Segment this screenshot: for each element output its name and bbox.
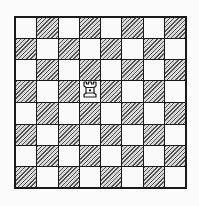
square-a5[interactable] — [16, 81, 36, 102]
square-h4[interactable] — [165, 103, 185, 123]
square-b5[interactable] — [37, 81, 57, 102]
white-rook-icon[interactable] — [82, 81, 98, 102]
square-a7[interactable] — [16, 39, 36, 59]
square-a1[interactable] — [16, 167, 36, 187]
square-b1[interactable] — [37, 167, 57, 187]
square-a6[interactable] — [16, 60, 36, 80]
square-f3[interactable] — [122, 125, 142, 145]
square-h2[interactable] — [165, 146, 185, 166]
square-b6[interactable] — [37, 60, 57, 80]
square-d1[interactable] — [80, 167, 100, 187]
square-e7[interactable] — [101, 39, 121, 59]
square-f8[interactable] — [122, 18, 142, 38]
square-e4[interactable] — [101, 103, 121, 123]
square-e2[interactable] — [101, 146, 121, 166]
square-g6[interactable] — [144, 60, 164, 80]
square-e8[interactable] — [101, 18, 121, 38]
square-a4[interactable] — [16, 103, 36, 123]
square-c3[interactable] — [59, 125, 79, 145]
square-h3[interactable] — [165, 125, 185, 145]
square-f6[interactable] — [122, 60, 142, 80]
square-g1[interactable] — [144, 167, 164, 187]
square-c8[interactable] — [59, 18, 79, 38]
square-c6[interactable] — [59, 60, 79, 80]
square-f7[interactable] — [122, 39, 142, 59]
square-h6[interactable] — [165, 60, 185, 80]
square-g7[interactable] — [144, 39, 164, 59]
square-b4[interactable] — [37, 103, 57, 123]
square-g4[interactable] — [144, 103, 164, 123]
square-e1[interactable] — [101, 167, 121, 187]
chessboard — [14, 16, 187, 189]
square-c5[interactable] — [59, 81, 79, 102]
square-a2[interactable] — [16, 146, 36, 166]
square-e3[interactable] — [101, 125, 121, 145]
square-d4[interactable] — [80, 103, 100, 123]
square-h1[interactable] — [165, 167, 185, 187]
square-d2[interactable] — [80, 146, 100, 166]
square-b2[interactable] — [37, 146, 57, 166]
square-d7[interactable] — [80, 39, 100, 59]
square-d5[interactable] — [80, 81, 100, 102]
square-f4[interactable] — [122, 103, 142, 123]
square-b7[interactable] — [37, 39, 57, 59]
square-a8[interactable] — [16, 18, 36, 38]
square-e6[interactable] — [101, 60, 121, 80]
square-f2[interactable] — [122, 146, 142, 166]
square-g5[interactable] — [144, 81, 164, 102]
square-b3[interactable] — [37, 125, 57, 145]
square-f5[interactable] — [122, 81, 142, 102]
square-h5[interactable] — [165, 81, 185, 102]
square-g3[interactable] — [144, 125, 164, 145]
square-c7[interactable] — [59, 39, 79, 59]
square-d3[interactable] — [80, 125, 100, 145]
square-c4[interactable] — [59, 103, 79, 123]
square-d6[interactable] — [80, 60, 100, 80]
square-c2[interactable] — [59, 146, 79, 166]
square-c1[interactable] — [59, 167, 79, 187]
square-e5[interactable] — [101, 81, 121, 102]
square-h7[interactable] — [165, 39, 185, 59]
square-f1[interactable] — [122, 167, 142, 187]
square-h8[interactable] — [165, 18, 185, 38]
square-d8[interactable] — [80, 18, 100, 38]
square-b8[interactable] — [37, 18, 57, 38]
square-a3[interactable] — [16, 125, 36, 145]
square-g2[interactable] — [144, 146, 164, 166]
square-g8[interactable] — [144, 18, 164, 38]
